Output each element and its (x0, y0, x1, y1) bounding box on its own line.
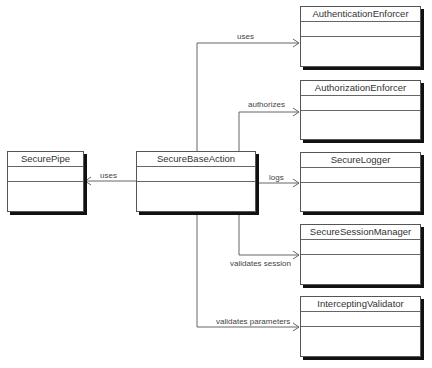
class-attributes (301, 22, 420, 37)
class-name: AuthenticationEnforcer (301, 7, 420, 22)
class-name: SecureLogger (301, 153, 420, 168)
class-name: SecureBaseAction (137, 152, 255, 167)
class-name: AuthorizationEnforcer (301, 81, 420, 96)
class-attributes (301, 312, 420, 327)
class-name: SecureSessionManager (301, 225, 420, 240)
class-authorization-enforcer[interactable]: AuthorizationEnforcer (300, 80, 421, 140)
class-name: InterceptingValidator (301, 297, 420, 312)
relation-label-logs: logs (269, 173, 284, 182)
relation-label-authorizes: authorizes (248, 100, 285, 109)
class-name: SecurePipe (8, 152, 83, 167)
relation-label-uses-auth: uses (237, 32, 254, 41)
class-secure-pipe[interactable]: SecurePipe (7, 151, 84, 212)
class-secure-session-manager[interactable]: SecureSessionManager (300, 224, 421, 285)
class-attributes (301, 240, 420, 255)
class-attributes (137, 167, 255, 182)
class-attributes (301, 168, 420, 183)
relation-label-uses-pipe: uses (100, 171, 117, 180)
class-attributes (301, 96, 420, 111)
class-authentication-enforcer[interactable]: AuthenticationEnforcer (300, 6, 421, 67)
relation-label-validates-parameters: validates parameters (216, 317, 290, 326)
class-intercepting-validator[interactable]: InterceptingValidator (300, 296, 421, 357)
class-attributes (8, 167, 83, 182)
class-secure-logger[interactable]: SecureLogger (300, 152, 421, 212)
relation-label-validates-session: validates session (230, 259, 291, 268)
class-secure-base-action[interactable]: SecureBaseAction (136, 151, 256, 212)
